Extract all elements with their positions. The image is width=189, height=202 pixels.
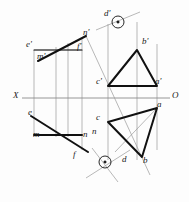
label-d: d <box>122 155 127 164</box>
axis-label-o: O <box>172 91 179 100</box>
axis-label-x: X <box>13 91 19 100</box>
oblique-lower-2 <box>92 148 118 182</box>
label-b-prime: b' <box>142 37 148 46</box>
label-m: m <box>33 130 40 139</box>
label-e: e <box>28 108 32 117</box>
label-e-prime: e' <box>26 40 32 49</box>
label-a: a <box>157 100 162 109</box>
label-n-inner: n <box>92 127 97 136</box>
label-d-prime: d' <box>104 9 110 18</box>
label-m-prime: m' <box>37 52 45 61</box>
geometry-drawing: X O e' m' n' f' d' b' c' a' e m n f c n … <box>0 0 189 202</box>
label-a-prime: a' <box>155 77 161 86</box>
right-angle-dot-lower <box>104 161 106 163</box>
label-n-prime: n' <box>83 28 89 37</box>
label-c: c <box>96 113 100 122</box>
label-b: b <box>143 156 148 165</box>
label-f: f <box>73 150 76 159</box>
right-angle-dot-upper <box>117 21 119 23</box>
triangle-front <box>108 50 157 86</box>
label-c-prime: c' <box>96 77 102 86</box>
label-n-right: n <box>83 130 88 139</box>
label-f-prime: f' <box>77 42 81 51</box>
